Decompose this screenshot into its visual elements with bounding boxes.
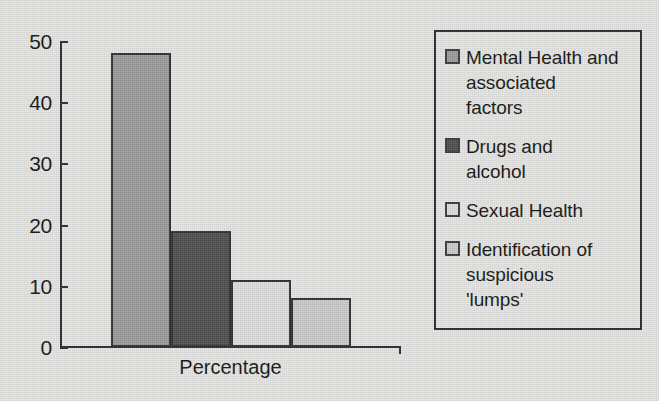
y-tick-label-20: 20 (8, 215, 52, 236)
legend-swatch-icon-sexual-health (445, 202, 460, 217)
y-tick-label-40-wrap: 40 (0, 92, 52, 113)
legend-item-drugs-alcohol: Drugs and alcohol (445, 134, 632, 184)
legend-swatch-icon-drugs-alcohol (445, 138, 460, 153)
y-tick-label-0: 0 (8, 337, 52, 358)
x-axis-title: Percentage (60, 355, 401, 379)
y-tick-50 (60, 41, 68, 43)
legend-label-suspicious-lumps: Identification of suspicious 'lumps' (466, 237, 592, 312)
y-tick-label-10-wrap: 10 (0, 276, 52, 297)
y-tick-20 (60, 225, 68, 227)
y-tick-label-30-wrap: 30 (0, 153, 52, 174)
chart-screenshot: 50 40 30 20 10 0 Percentage (0, 0, 659, 401)
y-tick-40 (60, 102, 68, 104)
bar-mental-health (111, 53, 171, 347)
y-tick-label-0-wrap: 0 (0, 337, 52, 358)
legend-label-drugs-alcohol: Drugs and alcohol (466, 134, 553, 184)
x-axis-end-tick (399, 346, 401, 354)
legend-item-suspicious-lumps: Identification of suspicious 'lumps' (445, 237, 632, 312)
y-tick-10 (60, 286, 68, 288)
y-tick-label-10: 10 (8, 276, 52, 297)
legend-swatch-icon-mental-health (445, 49, 460, 64)
plot-area: 50 40 30 20 10 0 Percentage (0, 0, 430, 401)
y-tick-label-40: 40 (8, 92, 52, 113)
legend-box: Mental Health and associated factors Dru… (434, 30, 642, 330)
y-tick-0 (60, 347, 68, 349)
bar-suspicious-lumps (291, 298, 351, 347)
legend-label-mental-health: Mental Health and associated factors (466, 45, 619, 120)
y-tick-label-50-wrap: 50 (0, 31, 52, 52)
legend-label-sexual-health: Sexual Health (466, 198, 583, 223)
y-tick-label-50: 50 (8, 31, 52, 52)
y-tick-30 (60, 163, 68, 165)
bar-drugs-alcohol (171, 231, 231, 347)
bar-sexual-health (231, 280, 291, 347)
legend-item-mental-health: Mental Health and associated factors (445, 45, 632, 120)
legend-item-sexual-health: Sexual Health (445, 198, 632, 223)
legend-swatch-icon-suspicious-lumps (445, 241, 460, 256)
y-tick-label-20-wrap: 20 (0, 215, 52, 236)
y-axis-line (60, 41, 62, 348)
y-tick-label-30: 30 (8, 153, 52, 174)
